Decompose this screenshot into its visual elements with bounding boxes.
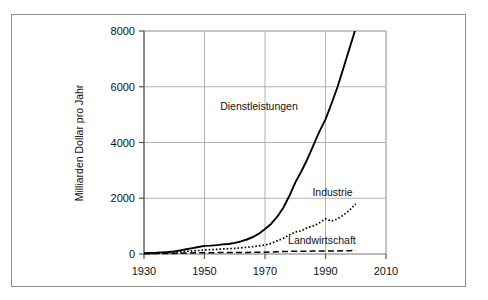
y-axis-title-text: Milliarden Dollar pro Jahr (73, 84, 85, 201)
figure-container: 02000400060008000 19301950197019902010 M… (0, 0, 488, 300)
x-tick-label: 2010 (374, 265, 398, 277)
y-tick-label: 0 (129, 248, 135, 260)
series-line-dienstleistungen (144, 28, 356, 253)
series-label-industrie: Industrie (312, 186, 352, 198)
y-axis-title: Milliarden Dollar pro Jahr (73, 84, 85, 201)
x-tick-label: 1930 (132, 265, 156, 277)
y-tick-label: 2000 (111, 192, 135, 204)
plot-gridlines (144, 31, 386, 254)
series-label-dienstleistungen: Dienstleistungen (220, 100, 298, 112)
y-tick-label: 8000 (111, 25, 135, 37)
y-axis-tick-labels: 02000400060008000 (111, 25, 135, 260)
x-tick-label: 1950 (192, 265, 216, 277)
series-line-industrie (144, 204, 356, 254)
x-tick-label: 1970 (253, 265, 277, 277)
series-label-landwirtschaft: Landwirtschaft (288, 234, 356, 246)
y-tick-label: 4000 (111, 137, 135, 149)
x-axis-tick-labels: 19301950197019902010 (132, 265, 398, 277)
plot-axes (139, 31, 386, 259)
data-series-group (144, 28, 356, 253)
x-tick-label: 1990 (313, 265, 337, 277)
y-tick-label: 6000 (111, 81, 135, 93)
line-chart: 02000400060008000 19301950197019902010 M… (12, 15, 467, 288)
series-annotation-labels: DienstleistungenIndustrieLandwirtschaft (220, 100, 356, 246)
figure-frame: 02000400060008000 19301950197019902010 M… (11, 14, 466, 287)
